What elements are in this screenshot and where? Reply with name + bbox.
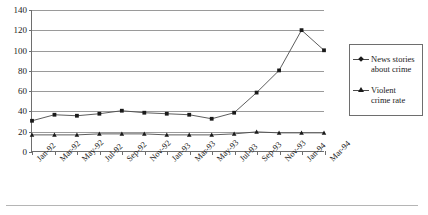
- data-point-marker: [75, 114, 79, 118]
- x-axis-tick: [77, 151, 78, 155]
- x-axis-tick: [235, 151, 236, 155]
- series-plot: [32, 10, 324, 151]
- data-point-marker: [30, 119, 34, 123]
- x-axis-tick-label: Sep-93: [260, 157, 266, 163]
- legend-label-news-stories: News stories about crime: [369, 54, 415, 74]
- y-axis-tick-label: 0: [23, 148, 28, 157]
- data-point-marker: [210, 117, 214, 121]
- x-axis-tick: [325, 151, 326, 155]
- x-axis-tick: [100, 151, 101, 155]
- x-axis-tick-label: May-92: [80, 157, 86, 163]
- data-point-marker: [120, 109, 124, 113]
- data-point-marker: [300, 28, 304, 32]
- x-axis-tick-label: Nov-92: [148, 157, 154, 163]
- legend-label-line2: crime rate: [371, 95, 405, 105]
- y-axis-tick-label: 20: [18, 127, 27, 136]
- x-axis-tick: [257, 151, 258, 155]
- legend-label-line1: Violent: [371, 85, 396, 95]
- x-axis-tick-label: Jul-92: [103, 157, 109, 163]
- x-axis-tick-label: Mar-92: [58, 157, 64, 163]
- legend-label-line1: News stories: [371, 54, 415, 64]
- legend-label-line2: about crime: [371, 64, 411, 74]
- x-axis-tick-label: Nov-93: [283, 157, 289, 163]
- x-axis-tick: [167, 151, 168, 155]
- y-axis-tick-label: 60: [18, 87, 27, 96]
- legend: News stories about crime Violent crime r…: [349, 44, 423, 116]
- bottom-divider: [6, 205, 418, 206]
- x-axis-tick: [32, 151, 33, 155]
- x-axis-tick-label: Jan-92: [35, 157, 41, 163]
- data-point-marker: [255, 91, 259, 95]
- line-chart: 020406080100120140 Jan-92Mar-92May-92Jul…: [0, 0, 428, 215]
- x-axis-tick: [212, 151, 213, 155]
- x-axis-tick-label: Mar-93: [193, 157, 199, 163]
- data-point-marker: [277, 69, 281, 73]
- data-point-marker: [97, 112, 101, 116]
- x-axis-tick-label: Jul-93: [238, 157, 244, 163]
- x-axis-tick: [55, 151, 56, 155]
- x-axis-tick: [190, 151, 191, 155]
- data-point-marker: [232, 111, 236, 115]
- data-point-marker: [187, 113, 191, 117]
- legend-key-triangle-icon: [353, 86, 369, 96]
- y-axis-tick-label: 120: [14, 26, 28, 35]
- x-axis-tick-label: May-93: [215, 157, 221, 163]
- x-axis-tick: [302, 151, 303, 155]
- x-axis-tick: [280, 151, 281, 155]
- x-axis-tick-label: Jan-94: [305, 157, 311, 163]
- y-axis-tick-label: 40: [18, 107, 27, 116]
- legend-item-news-stories: News stories about crime: [353, 54, 423, 74]
- data-point-marker: [165, 112, 169, 116]
- data-point-marker: [53, 113, 57, 117]
- legend-label-violent-crime: Violent crime rate: [369, 85, 405, 105]
- x-axis-tick-label: Mar-94: [328, 157, 334, 163]
- plot-area: 020406080100120140: [31, 10, 324, 152]
- legend-item-violent-crime: Violent crime rate: [353, 85, 423, 105]
- y-axis-tick-label: 140: [14, 6, 28, 15]
- x-axis-tick: [122, 151, 123, 155]
- y-axis-tick-label: 100: [14, 46, 28, 55]
- legend-key-diamond-icon: [353, 55, 369, 65]
- x-axis-tick-label: Sep-92: [125, 157, 131, 163]
- series-line: [32, 30, 324, 121]
- data-point-marker: [142, 111, 146, 115]
- x-axis-tick-label: Jan-93: [170, 157, 176, 163]
- x-axis-tick: [145, 151, 146, 155]
- data-point-marker: [322, 48, 326, 52]
- y-axis-tick-label: 80: [18, 66, 27, 75]
